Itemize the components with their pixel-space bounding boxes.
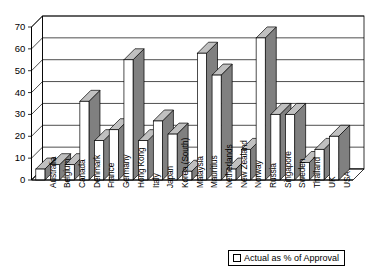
chart-axis-tick [32,82,43,93]
plot-area: 706050403020100 AustraliaBelgiumCanadaDe… [0,0,365,275]
y-axis-tick-label: 30 [3,109,25,119]
chart-legend: Actual as % of Approval [228,250,345,266]
y-axis-tick-label: 60 [3,44,25,54]
y-axis-tick-label: 40 [3,88,25,98]
chart-canvas [0,0,365,275]
chart-axis-tick [32,16,43,27]
chart-axis-tick [32,103,43,114]
chart-axis-tick [32,147,43,158]
y-axis-tick-label: 20 [3,131,25,141]
legend-entry-label: Actual as % of Approval [244,253,339,263]
chart-left-wall [32,16,43,180]
bar-chart: 706050403020100 AustraliaBelgiumCanadaDe… [0,0,365,275]
bar-netherlands [212,64,232,180]
y-axis-tick-label: 50 [3,66,25,76]
bar-usa [330,125,350,180]
y-axis-tick-label: 10 [3,153,25,163]
y-axis-tick-label: 70 [3,22,25,32]
y-axis-tick-label: 0 [3,175,25,185]
chart-axis-tick [32,60,43,71]
chart-axis-tick [32,125,43,136]
chart-axis-tick [32,38,43,49]
legend-swatch-icon [233,254,241,262]
